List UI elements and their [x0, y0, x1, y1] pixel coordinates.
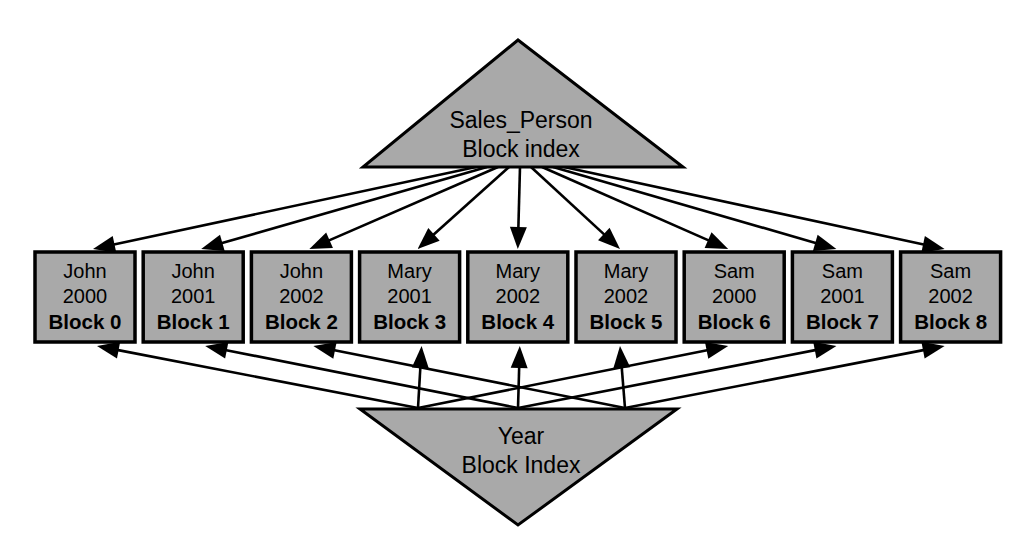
- block-id-label: Block 0: [49, 310, 122, 333]
- block-year-label: 2001: [171, 285, 216, 307]
- block-node[interactable]: Mary2002Block 4: [468, 252, 568, 342]
- block-id-label: Block 1: [157, 310, 230, 333]
- block-node[interactable]: Sam2001Block 7: [792, 252, 892, 342]
- top-triangle-label-line2: Block index: [462, 136, 580, 162]
- block-node[interactable]: John2000Block 0: [35, 252, 135, 342]
- block-row: John2000Block 0John2001Block 1John2002Bl…: [35, 252, 1001, 342]
- diagram-canvas: Sales_Person Block index Year Block Inde…: [0, 0, 1025, 554]
- block-person-label: Sam: [714, 260, 755, 282]
- block-id-label: Block 4: [481, 310, 555, 333]
- block-person-label: John: [172, 260, 215, 282]
- block-person-label: Mary: [387, 260, 431, 282]
- top-index-edges: [93, 167, 945, 253]
- block-node[interactable]: Sam2000Block 6: [684, 252, 784, 342]
- block-person-label: Mary: [496, 260, 540, 282]
- block-year-label: 2000: [712, 285, 757, 307]
- block-id-label: Block 7: [806, 310, 879, 333]
- block-id-label: Block 8: [914, 310, 987, 333]
- block-person-label: Mary: [604, 260, 648, 282]
- block-year-label: 2001: [820, 285, 865, 307]
- block-id-label: Block 5: [590, 310, 663, 333]
- block-node[interactable]: Sam2002Block 8: [901, 252, 1001, 342]
- block-node[interactable]: Mary2002Block 5: [576, 252, 676, 342]
- top-triangle[interactable]: Sales_Person Block index: [363, 40, 683, 167]
- block-year-label: 2002: [496, 285, 541, 307]
- block-person-label: Sam: [822, 260, 863, 282]
- block-id-label: Block 6: [698, 310, 771, 333]
- block-node[interactable]: Mary2001Block 3: [360, 252, 460, 342]
- bottom-triangle[interactable]: Year Block Index: [360, 409, 677, 525]
- block-year-label: 2000: [63, 285, 108, 307]
- block-node[interactable]: John2002Block 2: [251, 252, 351, 342]
- block-person-label: Sam: [930, 260, 971, 282]
- diagram-svg: Sales_Person Block index Year Block Inde…: [0, 0, 1025, 554]
- block-person-label: John: [280, 260, 323, 282]
- block-year-label: 2001: [387, 285, 432, 307]
- top-triangle-label-line1: Sales_Person: [449, 107, 592, 133]
- block-node[interactable]: John2001Block 1: [143, 252, 243, 342]
- bottom-triangle-label-line2: Block Index: [462, 452, 581, 478]
- block-year-label: 2002: [279, 285, 324, 307]
- bottom-triangle-label-line1: Year: [498, 423, 545, 449]
- block-person-label: John: [63, 260, 106, 282]
- bottom-index-edges: [97, 342, 945, 408]
- block-year-label: 2002: [604, 285, 649, 307]
- block-id-label: Block 3: [373, 310, 446, 333]
- block-year-label: 2002: [928, 285, 973, 307]
- block-id-label: Block 2: [265, 310, 338, 333]
